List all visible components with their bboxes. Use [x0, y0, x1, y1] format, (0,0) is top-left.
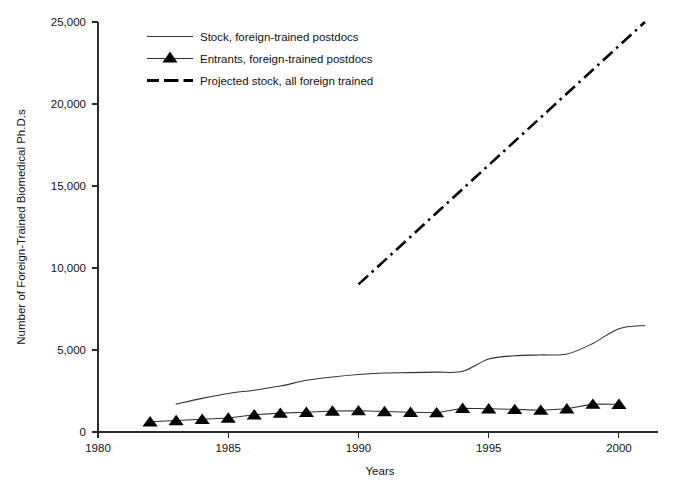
series-line-stock	[176, 325, 645, 404]
x-tick-label: 1995	[476, 442, 502, 454]
x-tick-label: 2000	[606, 442, 632, 454]
data-point-marker-triangle	[455, 403, 470, 413]
y-tick-label: 20,000	[51, 98, 86, 110]
y-axis-ticks	[92, 22, 98, 432]
y-axis-title: Number of Foreign-Trained Biomedical Ph.…	[15, 109, 27, 345]
x-axis-tick-labels: 19801985199019952000	[85, 442, 632, 454]
legend-entry-entrants: Entrants, foreign-trained postdocs	[147, 52, 373, 66]
data-point-marker-triangle	[585, 398, 600, 408]
x-tick-label: 1980	[85, 442, 111, 454]
legend-entry-projected: Projected stock, all foreign trained	[147, 75, 373, 87]
y-tick-label: 25,000	[51, 16, 86, 28]
legend-label-projected: Projected stock, all foreign trained	[200, 75, 373, 87]
y-tick-label: 15,000	[51, 180, 86, 192]
x-tick-label: 1990	[346, 442, 372, 454]
y-axis-tick-labels: 05,00010,00015,00020,00025,000	[51, 16, 86, 438]
y-tick-label: 10,000	[51, 262, 86, 274]
y-tick-label: 5,000	[57, 344, 86, 356]
x-axis-ticks	[98, 432, 619, 438]
chart-figure: 05,00010,00015,00020,00025,000 198019851…	[0, 0, 677, 486]
chart-legend: Stock, foreign-trained postdocs Entrants…	[147, 31, 373, 87]
legend-label-stock: Stock, foreign-trained postdocs	[200, 31, 359, 43]
legend-label-entrants: Entrants, foreign-trained postdocs	[200, 53, 373, 65]
x-axis-title: Years	[366, 465, 395, 477]
data-point-marker-triangle	[351, 405, 366, 415]
series-line-projected-stock	[358, 22, 645, 284]
line-chart-canvas: 05,00010,00015,00020,00025,000 198019851…	[0, 0, 677, 486]
y-tick-label: 0	[80, 426, 86, 438]
series-markers-entrants	[142, 398, 626, 426]
x-tick-label: 1985	[215, 442, 241, 454]
legend-swatch-triangle-icon	[163, 52, 178, 63]
legend-entry-stock: Stock, foreign-trained postdocs	[147, 31, 359, 43]
